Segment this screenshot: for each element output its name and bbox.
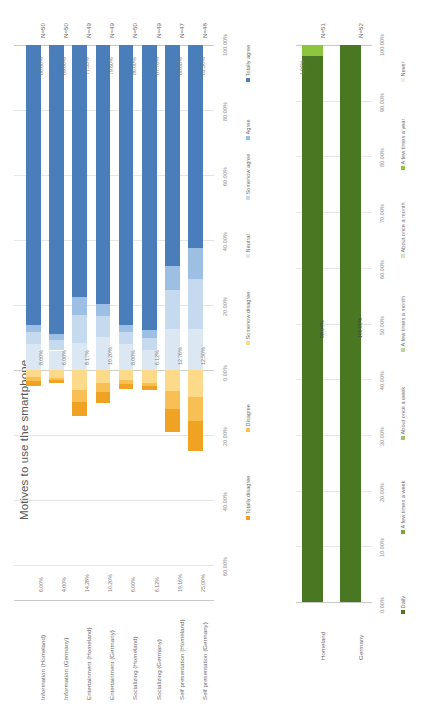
motives-value-neutral-7-wrap: 12.50%	[200, 347, 206, 365]
motives-value-totally-disagree-0: 6.00%	[38, 577, 44, 592]
motives-value-neutral-4: 8.00%	[130, 350, 136, 365]
motives-value-neutral-7: 12.50%	[200, 347, 206, 365]
motives-legend-label-1: Disagree	[245, 404, 251, 426]
motives-value-totally-agree-0-wrap: 86.00%	[38, 57, 44, 75]
motives-category-label-2-wrap: Entertainment (Homeland)	[85, 627, 92, 700]
motives-legend-item-3-wrap: Neutral	[245, 234, 251, 258]
motives-bar-segment	[165, 266, 180, 290]
motives-legend-label-0: Totally disagree	[245, 476, 251, 515]
motives-bar-segment	[188, 279, 203, 329]
using-axis-tick-5-wrap: 50.00%	[379, 316, 385, 335]
motives-bar-segment	[188, 421, 203, 451]
motives-bar-segment	[26, 332, 41, 344]
motives-value-totally-agree-1-wrap: 89.00%	[61, 57, 67, 75]
motives-sample-size-7-wrap: N=48	[201, 23, 208, 38]
motives-bar-segment	[142, 338, 157, 350]
motives-sample-size-5: N=49	[155, 23, 162, 38]
using-legend-swatch-4	[401, 254, 405, 258]
using-axis-tick-4: 40.00%	[379, 371, 385, 390]
motives-value-totally-agree-7: 62.50%	[200, 57, 206, 75]
using-axis-tick-10-wrap: 100.00%	[379, 34, 385, 56]
using-axis-tick-8: 80.00%	[379, 149, 385, 168]
motives-axis-tick-0: 60.00%	[222, 557, 228, 576]
using-legend-item-2: About once a week	[400, 387, 406, 440]
motives-category-label-0: Information (Homeland)	[39, 635, 46, 700]
motives-legend-item-6: Totally agree	[245, 45, 251, 82]
motives-value-totally-disagree-0-wrap: 6.00%	[38, 577, 44, 592]
using-legend-label-4: About once a month	[400, 202, 406, 252]
motives-value-totally-agree-4: 86.00%	[131, 57, 137, 75]
motives-legend-label-3: Neutral	[245, 234, 251, 252]
using-axis-tick-1: 10.00%	[379, 538, 385, 557]
motives-value-neutral-6: 12.76%	[177, 347, 183, 365]
motives-bar-segment	[165, 391, 180, 410]
motives-value-totally-agree-3-wrap: 79.60%	[108, 57, 114, 75]
using-legend-label-6: Never	[400, 61, 406, 76]
motives-bar-segment	[142, 330, 157, 338]
motives-legend-item-0: Totally disagree	[245, 476, 251, 520]
using-axis-tick-8-wrap: 80.00%	[379, 149, 385, 168]
motives-bar-segment	[96, 392, 111, 403]
motives-value-neutral-0: 8.00%	[38, 350, 44, 365]
using-category-label-1-wrap: Germany	[357, 635, 364, 660]
motives-legend-item-1-wrap: Disagree	[245, 404, 251, 432]
using-legend-item-5-wrap: A few times a year	[400, 119, 406, 170]
motives-bar-segment	[188, 45, 203, 248]
motives-value-totally-disagree-4: 6.00%	[130, 577, 136, 592]
motives-bar-segment	[188, 370, 203, 397]
motives-bar-segment	[96, 370, 111, 383]
using-sample-size-0: N=51	[319, 23, 326, 38]
motives-legend-swatch-2	[246, 341, 250, 345]
using-axis-tick-4-wrap: 40.00%	[379, 371, 385, 390]
motives-axis-tick-3: 0.00%	[222, 365, 228, 381]
motives-bar-segment	[72, 297, 87, 315]
motives-legend-swatch-1	[246, 428, 250, 432]
motives-legend-item-6-wrap: Totally agree	[245, 45, 251, 82]
using-value-daily-0-wrap: 98.04%	[319, 320, 325, 338]
motives-bar-segment	[49, 380, 64, 383]
using-axis-tick-2-wrap: 20.00%	[379, 483, 385, 502]
motives-legend-item-1: Disagree	[245, 404, 251, 432]
using-axis-tick-5: 50.00%	[379, 316, 385, 335]
motives-bar-segment	[49, 340, 64, 350]
motives-value-totally-disagree-5-wrap: 6.12%	[154, 577, 160, 592]
motives-value-totally-disagree-6: 19.16%	[177, 574, 183, 592]
motives-sample-size-3-wrap: N=49	[108, 23, 115, 38]
motives-bar-segment	[26, 45, 41, 325]
using-legend-label-2: About once a week	[400, 387, 406, 435]
motives-category-label-5-wrap: Socializing (Germany)	[155, 639, 162, 700]
motives-value-neutral-5-wrap: 6.12%	[154, 350, 160, 365]
motives-category-label-4: Socializing (Homeland)	[131, 636, 138, 700]
using-legend-item-6: Never	[400, 61, 406, 82]
motives-gridline	[14, 110, 214, 111]
motives-gridline	[14, 370, 214, 371]
motives-sample-size-3: N=49	[108, 23, 115, 38]
motives-gridline	[14, 305, 214, 306]
motives-bar-segment	[142, 45, 157, 330]
motives-axis-tick-2: 20.00%	[222, 427, 228, 446]
motives-category-axis-line	[14, 600, 214, 601]
using-category-label-0-wrap: Homeland	[319, 632, 326, 660]
motives-value-totally-disagree-2-wrap: 14.28%	[84, 574, 90, 592]
motives-sample-size-6-wrap: N=47	[178, 23, 185, 38]
motives-category-label-1: Information (Germany)	[62, 638, 69, 700]
motives-axis-tick-1: 40.00%	[222, 492, 228, 511]
motives-bar-segment	[72, 402, 87, 417]
motives-legend-swatch-4	[246, 196, 250, 200]
motives-sample-size-1-wrap: N=50	[62, 23, 69, 38]
using-axis-tick-7-wrap: 70.00%	[379, 204, 385, 223]
motives-value-neutral-2: 8.17%	[84, 350, 90, 365]
motives-gridline	[14, 175, 214, 176]
using-legend-item-1-wrap: A few times a week	[400, 481, 406, 534]
motives-legend-label-6: Totally agree	[245, 45, 251, 77]
motives-gridline	[14, 500, 214, 501]
using-sample-size-1-wrap: N=52	[357, 23, 364, 38]
motives-value-neutral-3: 10.20%	[107, 347, 113, 365]
using-legend-item-1: A few times a week	[400, 481, 406, 534]
using-value-daily-0: 98.04%	[319, 320, 325, 338]
scanned-chart-page: Motives to use the smartphone 60.00%40.0…	[0, 0, 421, 711]
motives-axis-tick-5-wrap: 40.00%	[222, 232, 228, 251]
using-sample-size-0-wrap: N=51	[319, 23, 326, 38]
motives-value-totally-disagree-3-wrap: 10.20%	[107, 574, 113, 592]
motives-axis-tick-5: 40.00%	[222, 232, 228, 251]
